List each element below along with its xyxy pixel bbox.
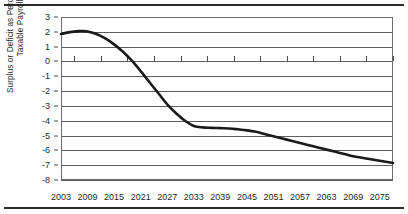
x-axis-tick-label: 2069	[343, 192, 363, 202]
x-axis-tick-labels: 2003200920152021202720332039204520512057…	[0, 192, 408, 206]
plot-area	[61, 17, 393, 180]
y-axis-tick-mark	[54, 105, 58, 106]
x-axis-tick-label: 2057	[290, 192, 310, 202]
x-axis-tick-label: 2015	[104, 192, 124, 202]
y-axis-tick-mark	[54, 61, 58, 62]
x-axis-tick-label: 2009	[78, 192, 98, 202]
y-axis-tick-mark	[54, 91, 58, 92]
y-axis-tick-label: 3	[45, 13, 50, 22]
y-axis-tick-label: -5	[42, 131, 50, 140]
y-axis-tick-mark	[54, 76, 58, 77]
y-axis-tick-label: -1	[42, 72, 50, 81]
y-axis-tick-label: -8	[42, 176, 50, 185]
x-axis-tick-label: 2039	[210, 192, 230, 202]
y-axis-tick-mark	[54, 120, 58, 121]
data-line-path	[61, 31, 393, 163]
y-axis-tick-label: -6	[42, 146, 50, 155]
y-axis-tick-mark	[54, 135, 58, 136]
x-axis-tick-label: 2033	[184, 192, 204, 202]
x-axis-tick-label: 2027	[157, 192, 177, 202]
chart-figure: Surplus or Deficit as Percentage of Taxa…	[0, 0, 408, 214]
y-axis-tick-label: -2	[42, 87, 50, 96]
gridline	[61, 180, 393, 181]
x-axis-tick-label: 2063	[317, 192, 337, 202]
y-axis-tick-label: 2	[45, 27, 50, 36]
y-axis-tick-mark	[54, 150, 58, 151]
data-line-svg	[61, 17, 393, 180]
y-axis-tick-mark	[54, 180, 58, 181]
y-axis-tick-label: -3	[42, 101, 50, 110]
y-axis-tick-mark	[54, 17, 58, 18]
y-axis-tick-mark	[54, 165, 58, 166]
y-axis-tick-label: -7	[42, 161, 50, 170]
x-axis-minor-tick	[393, 56, 394, 61]
y-axis-tick-labels: 3210-1-2-3-4-5-6-7-8	[0, 17, 58, 180]
y-axis-tick-mark	[54, 31, 58, 32]
y-axis-tick-label: -4	[42, 116, 50, 125]
bottom-rule	[4, 207, 404, 209]
x-axis-tick-label: 2051	[263, 192, 283, 202]
y-axis-tick-mark	[54, 46, 58, 47]
x-axis-tick-label: 2003	[51, 192, 71, 202]
x-axis-tick-label: 2045	[237, 192, 257, 202]
y-axis-tick-label: 1	[45, 42, 50, 51]
x-axis-tick-label: 2075	[370, 192, 390, 202]
top-rule	[4, 4, 404, 6]
y-axis-tick-label: 0	[45, 57, 50, 66]
x-axis-tick-label: 2021	[131, 192, 151, 202]
